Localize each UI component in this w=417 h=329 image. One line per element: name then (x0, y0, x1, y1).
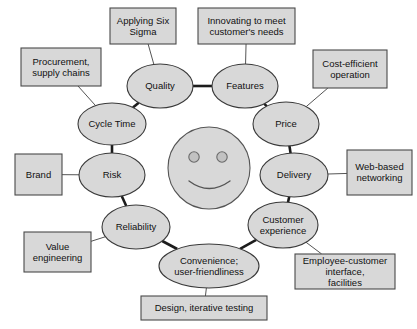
annotation-cost[interactable]: Cost-efficientoperation (313, 50, 387, 88)
annotation-shape (198, 8, 295, 44)
connector-innovating-features (246, 44, 247, 64)
diagram-svg: Applying SixSigmaInnovating to meetcusto… (0, 0, 417, 329)
connector-design-conv (205, 288, 206, 296)
connector-relia-conv (162, 241, 177, 249)
node-shape (159, 244, 259, 288)
node-shape (212, 64, 278, 108)
connector-procure-cycle (78, 86, 96, 106)
annotation-value[interactable]: Valueengineering (24, 232, 91, 272)
node-delivery[interactable]: Delivery (260, 153, 328, 197)
annotation-six-sigma[interactable]: Applying SixSigma (110, 8, 176, 44)
annotation-shape (110, 8, 176, 44)
face-right-eye-icon (217, 152, 227, 162)
connector-value-relia (91, 237, 105, 242)
connector-risk-relia (122, 196, 127, 206)
node-features[interactable]: Features (212, 64, 278, 108)
annotation-shape (15, 154, 62, 195)
smiley-face (168, 127, 250, 209)
annotation-shape (21, 48, 101, 86)
node-custexp[interactable]: Customerexperience (248, 202, 318, 248)
annotation-innovating[interactable]: Innovating to meetcustomer's needs (198, 8, 295, 44)
connector-custexp-conv (240, 240, 256, 249)
annotation-employee[interactable]: Employee-customerinterface,facilities (295, 254, 395, 289)
connector-delivery-custexp (288, 197, 289, 202)
node-shape (253, 102, 319, 146)
node-quality[interactable]: Quality (127, 64, 193, 108)
connector-employee-custexp (306, 242, 322, 254)
node-price[interactable]: Price (253, 102, 319, 146)
face-circle-icon (168, 127, 250, 209)
node-shape (79, 153, 145, 197)
node-shape (260, 153, 328, 197)
node-conv[interactable]: Convenience;user-friendliness (159, 244, 259, 288)
diagram-canvas: Applying SixSigmaInnovating to meetcusto… (0, 0, 417, 329)
connector-price-delivery (289, 146, 290, 153)
annotation-shape (313, 50, 387, 88)
annotation-design[interactable]: Design, iterative testing (141, 296, 267, 320)
node-cycle[interactable]: Cycle Time (78, 103, 146, 145)
node-risk[interactable]: Risk (79, 153, 145, 197)
annotation-shape (24, 232, 91, 272)
annotation-shape (295, 254, 395, 289)
annotation-webbased[interactable]: Web-basednetworking (347, 150, 412, 195)
connector-quality-cycle (133, 103, 139, 108)
node-shape (248, 202, 318, 248)
node-shape (127, 64, 193, 108)
annotation-shape (141, 296, 267, 320)
annotation-brand[interactable]: Brand (15, 154, 62, 195)
annotation-shape (347, 150, 412, 195)
node-relia[interactable]: Reliability (102, 205, 170, 249)
connector-webbased-delivery (328, 173, 347, 174)
face-left-eye-icon (189, 152, 199, 162)
node-shape (102, 205, 170, 249)
annotation-procure[interactable]: Procurement,supply chains (21, 48, 101, 86)
connector-cost-price (306, 88, 328, 107)
node-shape (78, 103, 146, 145)
connector-six-sigma-quality (148, 44, 154, 64)
